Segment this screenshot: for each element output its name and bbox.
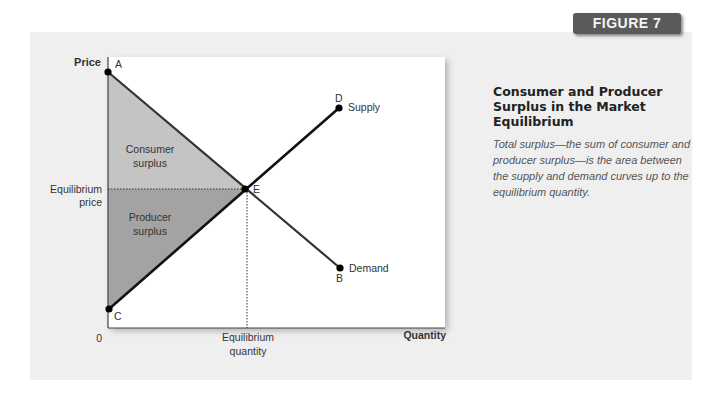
point-a-label: A xyxy=(115,58,122,70)
equilibrium-quantity-label-2: quantity xyxy=(230,345,268,357)
origin-label: 0 xyxy=(96,332,102,344)
equilibrium-quantity-label-1: Equilibrium xyxy=(222,331,274,343)
supply-label: Supply xyxy=(348,101,381,113)
consumer-surplus-label-1: Consumer xyxy=(126,143,175,155)
x-axis-label: Quantity xyxy=(403,329,446,341)
point-c-label: C xyxy=(114,310,122,322)
point-a-marker xyxy=(104,68,111,75)
producer-surplus-label-1: Producer xyxy=(129,211,172,223)
surplus-chart: Price A C E D B Supply Demand Consumer s… xyxy=(0,0,723,400)
point-b-marker xyxy=(336,264,343,271)
figure-caption: Consumer and Producer Surplus in the Mar… xyxy=(493,84,693,200)
point-e-marker xyxy=(241,185,248,192)
equilibrium-price-label-1: Equilibrium xyxy=(50,183,102,195)
point-b-label: B xyxy=(336,272,343,284)
equilibrium-price-label-2: price xyxy=(79,196,102,208)
point-d-marker xyxy=(335,104,342,111)
point-e-label: E xyxy=(253,183,260,195)
caption-title: Consumer and Producer Surplus in the Mar… xyxy=(493,84,693,129)
consumer-surplus-label-2: surplus xyxy=(133,157,167,169)
point-d-label: D xyxy=(335,92,343,104)
point-c-marker xyxy=(105,305,112,312)
y-axis-label: Price xyxy=(74,56,101,68)
caption-body: Total surplus—the sum of consumer and pr… xyxy=(493,136,693,200)
producer-surplus-label-2: surplus xyxy=(133,225,167,237)
demand-label: Demand xyxy=(349,262,389,274)
